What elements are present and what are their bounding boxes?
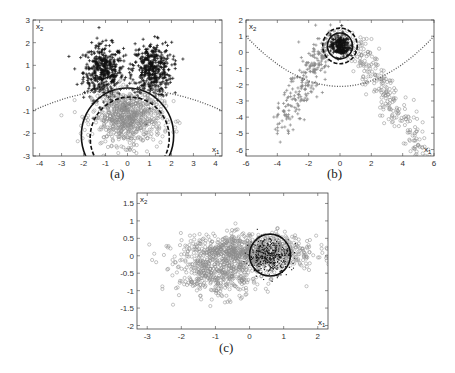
scatter-plot-c: -3-2-1012-2-1.5-1-0.500.511.5x1x2 <box>0 0 455 373</box>
caption-c: (c) <box>219 340 233 356</box>
plot-c: -3-2-1012-2-1.5-1-0.500.511.5x1x2 (c) <box>0 0 455 373</box>
y-tick-label: 1.5 <box>123 199 135 208</box>
x-tick-label: 0 <box>247 332 252 341</box>
y-tick-label: -0.5 <box>120 269 134 278</box>
x-tick-label: -2 <box>178 332 186 341</box>
x-tick-label: -3 <box>144 332 152 341</box>
x-axis-label: x1 <box>318 318 326 328</box>
y-tick-label: 0.5 <box>123 234 135 243</box>
y-tick-label: 1 <box>130 217 135 226</box>
y-axis-label: x2 <box>140 195 148 205</box>
y-tick-label: -1 <box>127 287 135 296</box>
y-tick-label: -1.5 <box>120 304 134 313</box>
x-tick-label: 1 <box>281 332 286 341</box>
y-tick-label: 0 <box>130 252 135 261</box>
y-tick-label: -2 <box>127 322 135 331</box>
x-tick-label: 2 <box>316 332 321 341</box>
